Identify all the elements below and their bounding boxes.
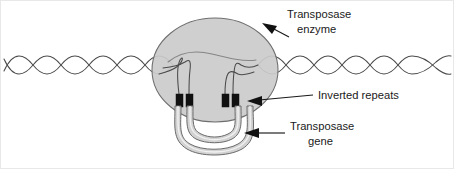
transposase-gene-label-line2: gene (308, 135, 333, 147)
dna-strand-left-b (4, 56, 173, 74)
dna-helix-right (258, 56, 451, 75)
label-transposase-gene: Transposase gene (244, 120, 354, 147)
dna-helix-left (4, 56, 173, 74)
inverted-repeat-block-1 (176, 94, 183, 107)
transposase-gene-label-line1: Transposase (290, 120, 354, 132)
inverted-repeat-block-4 (232, 94, 239, 107)
inverted-repeats-label: Inverted repeats (318, 89, 399, 101)
transposase-enzyme-label-line2: enzyme (297, 23, 336, 35)
inverted-repeat-block-2 (186, 94, 193, 107)
transposase-enzyme-label-line1: Transposase (287, 8, 351, 20)
transposase-diagram: Transposase enzyme Inverted repeats Tran… (0, 0, 454, 169)
inverted-repeat-block-3 (222, 94, 229, 107)
transposase-enzyme-arrow-icon (262, 23, 277, 34)
label-transposase-enzyme: Transposase enzyme (262, 8, 351, 37)
